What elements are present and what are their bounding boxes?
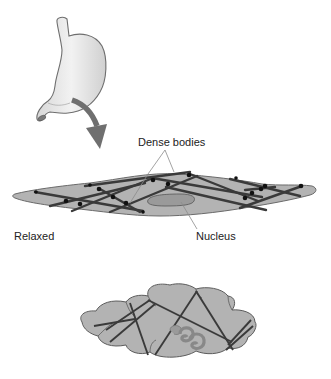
relaxed-cell <box>13 172 316 216</box>
relaxed-label: Relaxed <box>14 230 54 242</box>
stomach-illustration <box>37 17 106 121</box>
nucleus-label: Nucleus <box>196 230 236 242</box>
nucleus <box>148 194 195 206</box>
contracted-cell <box>81 284 256 357</box>
diagram-canvas <box>0 0 331 379</box>
dense-bodies-label: Dense bodies <box>138 136 205 148</box>
